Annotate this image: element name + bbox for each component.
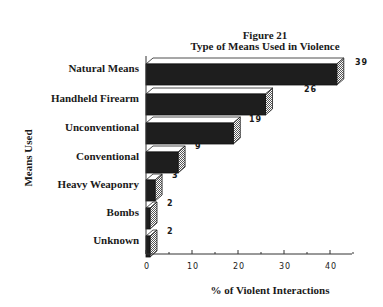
x-tick-40: 40	[325, 262, 337, 271]
value-label-handheld-firearm: 26	[304, 85, 317, 94]
value-label-heavy-weaponry: 3	[172, 171, 179, 180]
x-axis-label: % of Violent Interactions	[170, 284, 370, 296]
bar-unconventional	[146, 117, 240, 144]
bar-handheld-firearm	[146, 88, 273, 115]
value-label-bombs: 2	[167, 199, 174, 208]
value-label-unconventional: 19	[249, 115, 262, 124]
x-tick-0: 0	[144, 262, 150, 271]
bar-conventional	[146, 146, 185, 173]
x-tick-20: 20	[233, 262, 245, 271]
bar-plot-area	[0, 0, 383, 307]
value-label-unknown: 2	[167, 227, 174, 236]
bar-natural-means	[146, 58, 344, 85]
x-tick-10: 10	[187, 262, 199, 271]
x-axis-ticks	[146, 250, 353, 254]
bar-heavy-weaponry	[146, 174, 162, 201]
x-tick-30: 30	[279, 262, 291, 271]
value-label-conventional: 9	[195, 142, 202, 151]
bar-unknown	[146, 230, 157, 257]
bar-bombs	[146, 202, 157, 229]
value-label-natural-means: 39	[355, 58, 368, 67]
